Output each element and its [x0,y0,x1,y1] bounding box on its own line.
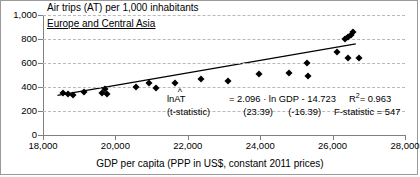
r2-value: = 0.963 [360,93,392,104]
y-axis-tick-label: 0 [3,130,37,140]
x-axis-tick-label: 22,000 [158,141,218,151]
y-axis-tick-label: 800 [3,34,37,44]
x-axis-tick-label: 20,000 [85,141,145,151]
equation-body: = 2.096 · ln GDP - 14.723 [229,93,336,106]
x-axis-line [43,135,405,136]
y-axis-tick-label: 200 [3,106,37,116]
gridline [43,39,405,40]
regression-equation-row: ln^AT= 2.096 · ln GDP - 14.723 R2= 0.963 [167,93,420,106]
x-axis-title: GDP per capita (PPP in US$, constant 201… [1,158,419,170]
gridline [43,87,405,88]
y-axis-tick [38,111,43,112]
t-statistic-label: (t-statistic) [167,106,229,119]
x-axis-tick-label: 24,000 [230,141,290,151]
r2-label: R [349,93,356,104]
y-axis-tick-labels: 02004006008001,000 [1,1,37,161]
y-axis-tick-label: 1,000 [3,10,37,20]
regression-annotation: ln^AT= 2.096 · ln GDP - 14.723 R2= 0.963… [167,93,420,118]
y-axis-tick-label: 400 [3,82,37,92]
chart-container: Air trips (AT) per 1,000 inhabitants Eur… [0,0,418,175]
y-axis-tick [38,87,43,88]
t-statistic-intercept: (-16.39) [273,106,321,119]
y-axis-tick-label: 600 [3,58,37,68]
y-axis-tick [38,39,43,40]
x-axis-tick-label: 18,000 [13,141,73,151]
chart-title: Air trips (AT) per 1,000 inhabitants [47,2,199,14]
f-statistic: F-statistic = 547 [334,106,408,119]
ln-prefix: ln [167,93,174,104]
hat-accent: ^ [178,88,182,97]
regression-stats-row: (t-statistic) (23.39) (-16.39) F-statist… [167,106,420,119]
gridline [43,15,405,16]
x-axis-tick-label: 28,000 [375,141,420,151]
r-squared: R2= 0.963 [349,93,420,106]
y-axis-tick [38,15,43,16]
equation-left: ln^AT [167,93,229,106]
t-statistic-slope: (23.39) [229,106,273,119]
gridline [43,63,405,64]
at-hat-variable: ^AT [174,93,185,106]
x-axis-tick-label: 26,000 [303,141,363,151]
y-axis-tick [38,63,43,64]
